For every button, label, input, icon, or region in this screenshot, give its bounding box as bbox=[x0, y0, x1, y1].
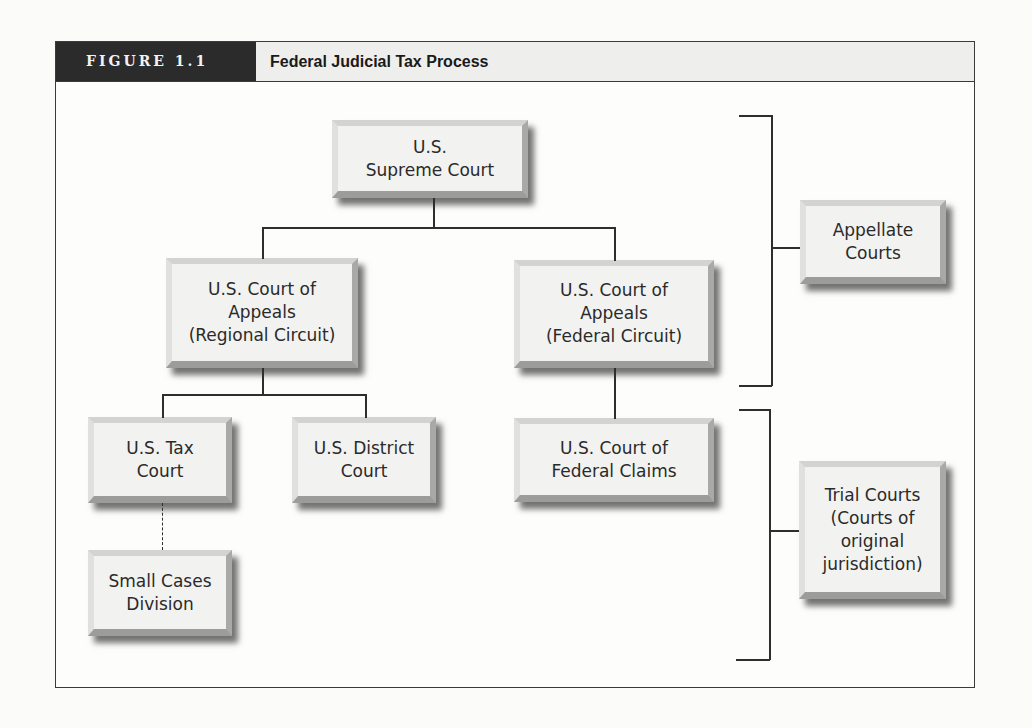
figure-label: FIGURE 1.1 bbox=[56, 42, 256, 81]
connector-regional-up bbox=[262, 227, 264, 259]
bracket-trial-bottom bbox=[736, 659, 770, 661]
connector-small-cases-dashed bbox=[162, 503, 163, 550]
group-trial-courts: Trial Courts (Courts of original jurisdi… bbox=[799, 461, 946, 599]
connector-federal-down bbox=[614, 368, 616, 419]
node-district-court: U.S. District Court bbox=[292, 417, 436, 503]
node-appeals-federal: U.S. Court of Appeals (Federal Circuit) bbox=[514, 260, 714, 368]
node-small-cases: Small Cases Division bbox=[88, 550, 232, 636]
node-tax-court: U.S. Tax Court bbox=[88, 417, 232, 503]
connector-district-up bbox=[365, 394, 367, 418]
bracket-appellate-connector bbox=[771, 247, 800, 249]
bracket-appellate-top bbox=[739, 115, 772, 117]
figure-title: Federal Judicial Tax Process bbox=[270, 42, 488, 81]
bracket-trial-vertical bbox=[769, 409, 771, 660]
bracket-trial-connector bbox=[769, 530, 799, 532]
group-appellate-courts: Appellate Courts bbox=[800, 200, 946, 284]
figure-header: FIGURE 1.1 Federal Judicial Tax Process bbox=[56, 42, 974, 82]
connector-federal-up bbox=[614, 227, 616, 261]
connector-tax-up bbox=[162, 394, 164, 418]
bracket-trial-top bbox=[739, 409, 771, 411]
node-appeals-regional: U.S. Court of Appeals (Regional Circuit) bbox=[166, 258, 358, 368]
connector-appeals-horizontal bbox=[262, 227, 615, 229]
node-supreme-court: U.S. Supreme Court bbox=[332, 120, 528, 198]
node-federal-claims: U.S. Court of Federal Claims bbox=[514, 418, 714, 502]
bracket-appellate-vertical bbox=[771, 115, 773, 386]
connector-supreme-down bbox=[433, 198, 435, 228]
connector-regional-down bbox=[262, 368, 264, 395]
bracket-appellate-bottom bbox=[739, 385, 772, 387]
connector-trial-horizontal bbox=[162, 394, 366, 396]
